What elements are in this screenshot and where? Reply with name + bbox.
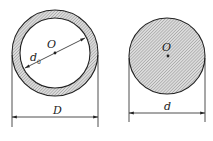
center-label-o: O [162,41,171,54]
outer-diameter-label: D [52,104,62,117]
inner-diameter-letter: d [30,51,37,64]
hollow-section: O d0 D [12,10,98,127]
shaft-cross-sections-diagram: O d0 D O d [0,0,213,141]
solid-section: O d [129,18,205,122]
center-point-dot [54,52,57,55]
solid-diameter-label: d [164,100,171,113]
center-point-dot [167,55,170,58]
inner-diameter-subscript: 0 [37,58,41,65]
center-label-o: O [47,38,56,51]
